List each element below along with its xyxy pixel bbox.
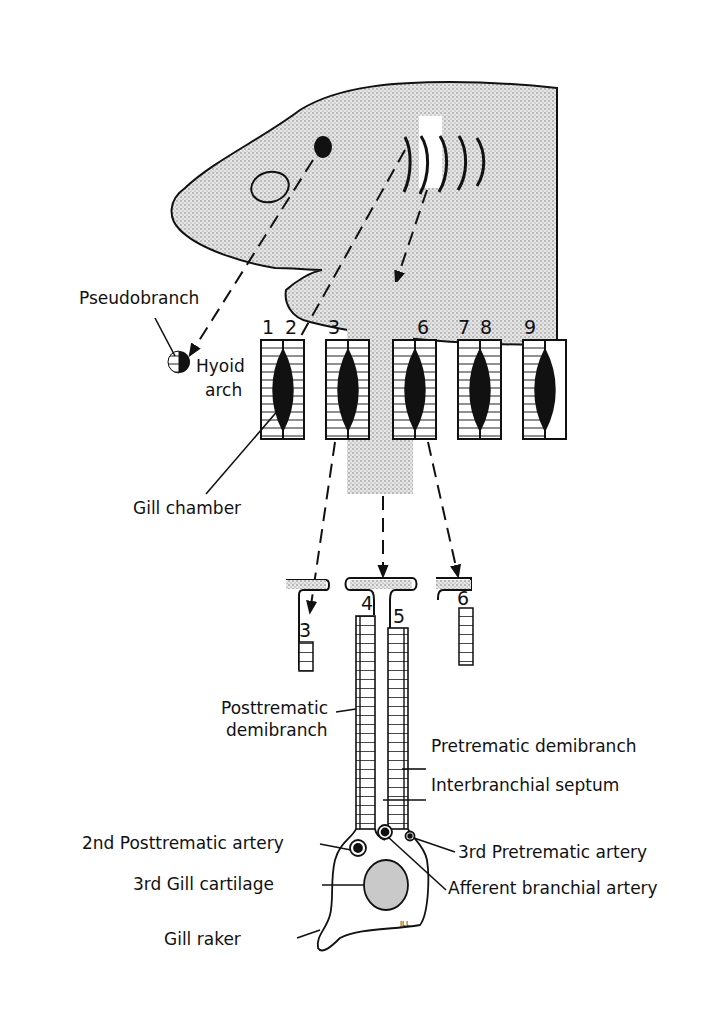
section-middle [346,578,417,829]
gill-arches [261,340,566,439]
arch-1-2 [261,340,304,439]
label-afferent-artery: Afferent branchial artery [448,878,658,898]
label-gill-cartilage: 3rd Gill cartilage [133,874,274,894]
arch-number-7: 7 [458,316,470,338]
section-number-4: 4 [361,592,373,614]
label-hyoid-arch-2: arch [205,380,242,400]
label-posttrematic-demibranch-1: Posttrematic [221,698,328,718]
gill-diagram: Pseudobranch Hyoid arch [0,0,726,1009]
label-posttrematic-demibranch-2: demibranch [226,720,328,740]
gill-slit-highlight [419,116,442,188]
label-posttrematic-artery: 2nd Posttrematic artery [82,833,284,853]
section-number-3: 3 [299,619,311,641]
gill-arch-base [318,825,429,951]
section-number-6: 6 [457,587,469,609]
arch-number-8: 8 [480,316,492,338]
arch-9 [523,340,566,439]
pseudobranch [155,318,190,373]
arch-number-9: 9 [524,316,536,338]
gill-cartilage [364,860,408,910]
label-hyoid-arch-1: Hyoid [196,356,245,376]
artist-signature: JLL [399,920,410,928]
arch-6 [393,340,436,439]
label-pretrematic-artery: 3rd Pretrematic artery [458,842,647,862]
arch-3 [326,340,369,439]
arch-7-8 [458,340,501,439]
label-gill-raker: Gill raker [164,929,241,949]
arch-number-3: 3 [328,316,340,338]
arch-number-1: 1 [262,316,274,338]
spiracle-icon [314,136,332,158]
label-gill-chamber: Gill chamber [133,498,241,518]
label-pretrematic-demibranch: Pretrematic demibranch [431,736,637,756]
arch-number-2: 2 [285,316,297,338]
section-number-5: 5 [393,605,405,627]
label-interbranchial-septum: Interbranchial septum [431,775,619,795]
label-pseudobranch: Pseudobranch [79,288,199,308]
arch-number-6: 6 [417,316,429,338]
